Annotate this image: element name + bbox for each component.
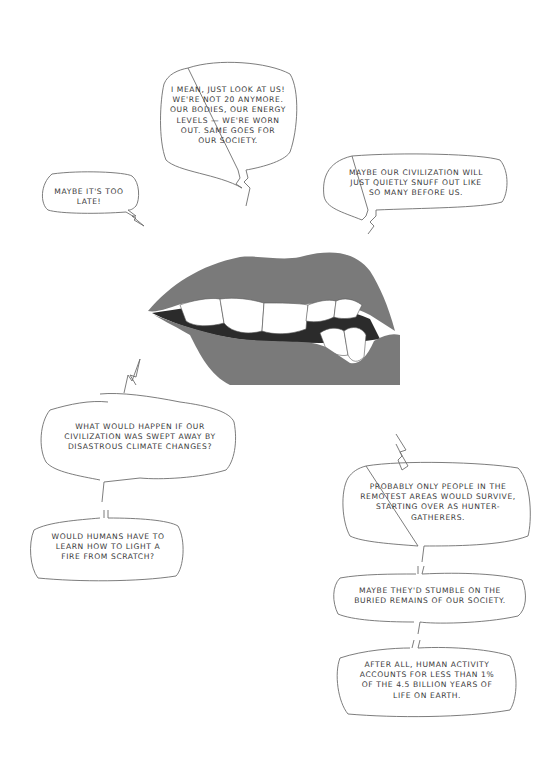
speech-bubble-too-late: MAYBE IT'S TOO LATE! bbox=[40, 172, 152, 228]
speech-bubble-fire: WOULD HUMANS HAVE TO LEARN HOW TO LIGHT … bbox=[28, 510, 188, 580]
bubble-text: I MEAN, JUST LOOK AT US! WE'RE NOT 20 AN… bbox=[158, 85, 298, 146]
bubble-text: MAYBE OUR CIVILIZATION WILL JUST QUIETLY… bbox=[322, 168, 510, 199]
bubble-text: WOULD HUMANS HAVE TO LEARN HOW TO LIGHT … bbox=[28, 532, 188, 563]
speech-bubble-human-activity: AFTER ALL, HUMAN ACTIVITY ACCOUNTS FOR L… bbox=[334, 640, 520, 720]
bubble-text: PROBABLY ONLY PEOPLE IN THE REMOTEST ARE… bbox=[342, 482, 534, 523]
speech-bubble-climate: WHAT WOULD HAPPEN IF OUR CIVILIZATION WA… bbox=[40, 392, 240, 480]
bubble-text: MAYBE THEY'D STUMBLE ON THE BURIED REMAI… bbox=[332, 586, 528, 606]
speech-bubble-remains: MAYBE THEY'D STUMBLE ON THE BURIED REMAI… bbox=[332, 566, 528, 624]
bubble-text: WHAT WOULD HAPPEN IF OUR CIVILIZATION WA… bbox=[40, 422, 240, 453]
speech-bubble-snuff-out: MAYBE OUR CIVILIZATION WILL JUST QUIETLY… bbox=[322, 150, 510, 232]
bubble-text: AFTER ALL, HUMAN ACTIVITY ACCOUNTS FOR L… bbox=[334, 660, 520, 701]
speech-bubble-look-at-us: I MEAN, JUST LOOK AT US! WE'RE NOT 20 AN… bbox=[158, 60, 298, 210]
bubble-text: MAYBE IT'S TOO LATE! bbox=[40, 187, 138, 207]
speech-bubble-survive: PROBABLY ONLY PEOPLE IN THE REMOTEST ARE… bbox=[342, 462, 534, 552]
